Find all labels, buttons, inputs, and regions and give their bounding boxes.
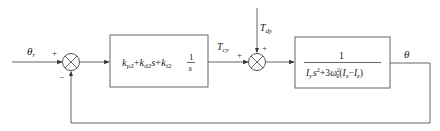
sum1-plus-sign: + [52,48,57,58]
controller-frac-den: s [189,63,193,73]
sum2-plus-sign-left: + [237,50,242,60]
control-torque-label: Tcy [217,41,230,54]
controller-frac-num: 1 [189,52,194,62]
disturbance-summing-junction [249,54,266,71]
output-signal-label: θ [404,48,410,60]
plant-numerator: 1 [339,50,344,61]
disturbance-label: Tdy [260,22,273,35]
plant-denominator: Iys2+3ω20(Ix−Iz) [305,66,363,79]
input-signal-label: θr [27,45,35,59]
error-summing-junction [63,54,80,71]
control-block-diagram: θr + − kp2+kd2s+ki2 1 s Tcy + Tdy + 1 Iy… [0,0,440,131]
sum2-plus-sign-top: + [262,43,267,53]
sum1-minus-sign: − [59,72,64,82]
